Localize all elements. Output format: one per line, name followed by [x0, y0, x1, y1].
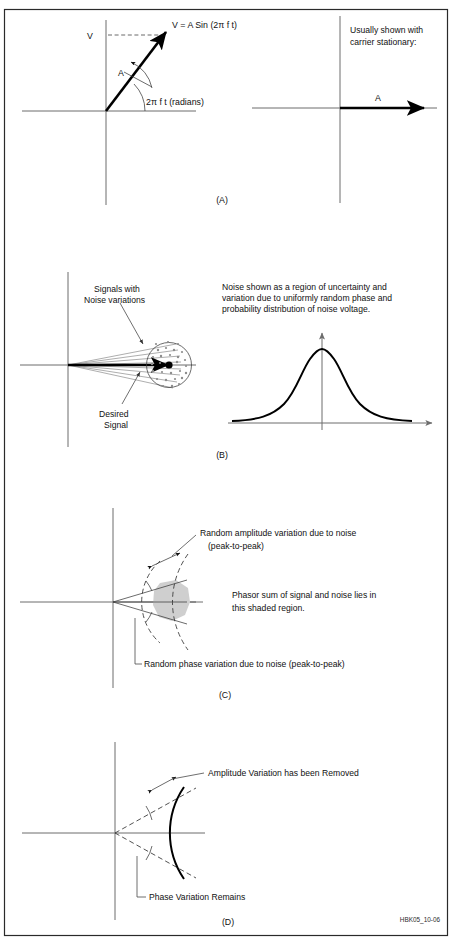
panel-a-equation: V = A Sin (2π f t) [172, 20, 237, 30]
panel-b-description-line3: probability distribution of noise voltag… [222, 304, 370, 314]
panel-d: Amplitude Variation has been Removed Pha… [22, 742, 359, 927]
panel-b-description-line1: Noise shown as a region of uncertainty a… [222, 282, 387, 292]
panel-a-right-note-line1: Usually shown with [350, 25, 423, 35]
panel-d-amplitude-note: Amplitude Variation has been Removed [208, 768, 359, 778]
panel-a-angle-arc [134, 84, 145, 111]
panel-c-phase-arc-lower [146, 612, 152, 622]
panel-a-caption: (A) [216, 195, 228, 205]
figure-container: V V = A Sin (2π f t) A 2π f t (radians) … [0, 0, 455, 950]
panel-d-amplitude-leader [172, 773, 204, 779]
panel-c-phase-arc-upper [146, 581, 152, 591]
figure-border [5, 10, 448, 936]
panel-b-phasor-tip-dot [165, 361, 172, 368]
panel-c-amplitude-note-line2: (peak-to-peak) [208, 541, 264, 551]
panel-b: Signals with Noise variations Desired Si… [20, 272, 432, 460]
panel-b-desired-leader [122, 372, 140, 404]
panel-b-signals-label-line2: Noise variations [84, 295, 145, 305]
panel-b-signals-leader [120, 303, 143, 344]
panel-c-amplitude-spread-arrow [152, 553, 180, 566]
panel-a-right-note-line2: carrier stationary: [350, 37, 416, 47]
panel-c-shaded-region [153, 580, 190, 621]
panel-a-v-axis-label: V [87, 31, 93, 41]
panel-a-rotation-tick [124, 72, 152, 87]
panel-c-caption: (C) [219, 690, 231, 700]
panel-d-upper-boundary [115, 788, 196, 833]
panel-a-amplitude-label: A [118, 68, 124, 78]
panel-c-phase-note: Random phase variation due to noise (pea… [144, 659, 345, 669]
panel-c-region-note-line1: Phasor sum of signal and noise lies in [232, 590, 376, 600]
panel-b-caption: (B) [216, 450, 228, 460]
panel-d-phase-leader [137, 856, 146, 897]
figure-code: HBK05_10-06 [400, 916, 441, 924]
panel-b-desired-label-line1: Desired [99, 409, 129, 419]
panel-a: V V = A Sin (2π f t) A 2π f t (radians) … [22, 16, 437, 205]
panel-b-desired-label-line2: Signal [104, 420, 128, 430]
panel-d-caption: (D) [222, 917, 234, 927]
panel-b-description-line2: variation due to uniformly random phase … [222, 293, 392, 303]
panel-a-angle-label: 2π f t (radians) [146, 97, 204, 107]
panel-d-phase-note: Phase Variation Remains [149, 892, 245, 902]
panel-a-right-amplitude-label: A [375, 93, 381, 103]
panel-b-signals-label-line1: Signals with [94, 284, 140, 294]
panel-c: Random amplitude variation due to noise … [20, 508, 376, 700]
panel-c-region-note-line2: this shaded region. [232, 603, 305, 613]
phasor-noise-figure: V V = A Sin (2π f t) A 2π f t (radians) … [0, 0, 455, 950]
panel-c-amplitude-note-line1: Random amplitude variation due to noise [200, 528, 356, 538]
panel-c-phase-leader [135, 618, 142, 664]
panel-d-lower-boundary [115, 833, 196, 878]
panel-c-amplitude-leader [172, 535, 196, 556]
